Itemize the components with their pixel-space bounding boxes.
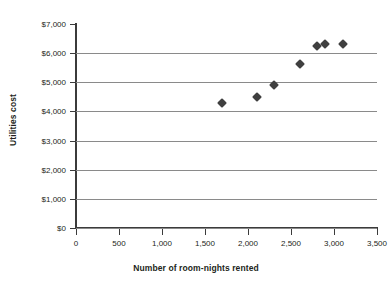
y-axis-tick-label: $6,000 [2,49,66,58]
x-axis-tick-label: 1,500 [195,239,215,248]
y-axis-tick [70,82,76,83]
plot-area: $0$1,000$2,000$3,000$4,000$5,000$6,000$7… [76,24,377,228]
gridline-y [76,53,377,54]
y-axis-tick [70,111,76,112]
x-axis-tick [162,229,163,235]
data-point [295,59,305,69]
x-axis-scale: 05001,0001,5002,0002,5003,0003,500 [76,229,378,255]
x-axis-tick-label: 2,500 [281,239,301,248]
x-axis-title: Number of room-nights rented [0,263,392,273]
x-axis-tick [205,229,206,235]
x-axis-tick-label: 0 [74,239,78,248]
y-axis-tick-label: $4,000 [2,107,66,116]
x-axis-tick-label: 2,000 [238,239,258,248]
x-axis-tick-label: 3,000 [324,239,344,248]
x-axis-tick [248,229,249,235]
data-point [252,92,262,102]
y-axis-tick [70,24,76,25]
x-axis-tick-label: 500 [112,239,125,248]
y-axis-tick-label: $3,000 [2,136,66,145]
data-point [338,39,348,49]
y-axis-tick-label: $7,000 [2,20,66,29]
gridline-y [76,141,377,142]
y-axis-title: Utilities cost [0,0,26,240]
y-axis-tick [70,141,76,142]
y-axis-tick-label: $5,000 [2,78,66,87]
y-axis-tick-label: $1,000 [2,194,66,203]
x-axis-tick [119,229,120,235]
x-axis-tick [377,229,378,235]
x-axis-tick-label: 1,000 [152,239,172,248]
x-axis-tick [291,229,292,235]
y-axis-tick-label: $2,000 [2,165,66,174]
x-axis-tick [76,229,77,235]
scatter-chart: Utilities cost $0$1,000$2,000$3,000$4,00… [0,0,392,293]
x-axis-tick [334,229,335,235]
y-axis-tick [70,170,76,171]
y-axis-tick [70,199,76,200]
gridline-y [76,82,377,83]
data-point [320,39,330,49]
y-axis-tick-label: $0 [2,224,66,233]
data-point [217,98,227,108]
gridline-y [76,111,377,112]
x-axis-tick-label: 3,500 [367,239,387,248]
gridline-y [76,170,377,171]
y-axis-tick [70,53,76,54]
gridline-y [76,199,377,200]
